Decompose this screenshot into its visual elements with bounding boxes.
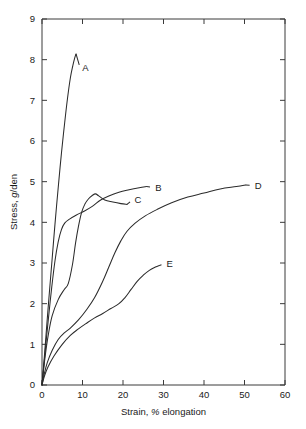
curve-E bbox=[42, 265, 159, 385]
curve-D bbox=[42, 185, 246, 385]
x-tick-label-10: 10 bbox=[77, 389, 88, 400]
leader-lines-group bbox=[76, 54, 250, 265]
stress-strain-figure: 0102030405060 0123456789 ABCDE Strain, %… bbox=[0, 0, 306, 429]
x-tick-label-0: 0 bbox=[39, 389, 44, 400]
axes-group bbox=[42, 19, 285, 385]
y-tick-label-9: 9 bbox=[30, 13, 35, 24]
y-axis-title: Stress, g/den bbox=[8, 174, 19, 230]
x-tick-label-20: 20 bbox=[118, 389, 129, 400]
curve-B bbox=[42, 187, 146, 385]
x-tick-label-30: 30 bbox=[158, 389, 169, 400]
x-axis-title-tail: elongation bbox=[160, 406, 206, 417]
curves-group bbox=[42, 54, 246, 385]
series-label-E: E bbox=[167, 258, 173, 269]
x-axis-tick-labels: 0102030405060 bbox=[39, 389, 290, 400]
plot-frame bbox=[42, 19, 285, 385]
y-tick-label-4: 4 bbox=[30, 217, 35, 228]
y-axis-tick-labels: 0123456789 bbox=[30, 13, 35, 390]
x-axis-title-head: Strain, bbox=[121, 406, 151, 417]
y-axis-title-head: Stress, bbox=[8, 198, 19, 230]
series-label-B: B bbox=[155, 182, 161, 193]
x-tick-label-50: 50 bbox=[239, 389, 250, 400]
y-tick-label-5: 5 bbox=[30, 176, 35, 187]
y-tick-label-0: 0 bbox=[30, 379, 35, 390]
y-tick-label-3: 3 bbox=[30, 257, 35, 268]
chart-canvas: 0102030405060 0123456789 ABCDE Strain, %… bbox=[0, 0, 306, 429]
y-tick-label-1: 1 bbox=[30, 339, 35, 350]
series-label-D: D bbox=[255, 180, 262, 191]
y-tick-label-7: 7 bbox=[30, 95, 35, 106]
y-tick-label-6: 6 bbox=[30, 135, 35, 146]
x-tick-label-60: 60 bbox=[280, 389, 291, 400]
series-label-C: C bbox=[135, 194, 142, 205]
axis-titles: Strain, % elongationStress, g/den bbox=[8, 174, 206, 417]
y-tick-label-2: 2 bbox=[30, 298, 35, 309]
x-axis-title: Strain, % elongation bbox=[121, 406, 206, 417]
ticks-group bbox=[42, 19, 285, 385]
series-labels: ABCDE bbox=[82, 62, 262, 269]
leader-E bbox=[159, 265, 161, 266]
leader-A bbox=[76, 54, 79, 65]
series-label-A: A bbox=[82, 62, 89, 73]
leader-C bbox=[127, 202, 130, 205]
y-tick-label-8: 8 bbox=[30, 54, 35, 65]
y-axis-title-tail: /den bbox=[8, 174, 19, 193]
x-tick-label-40: 40 bbox=[199, 389, 210, 400]
